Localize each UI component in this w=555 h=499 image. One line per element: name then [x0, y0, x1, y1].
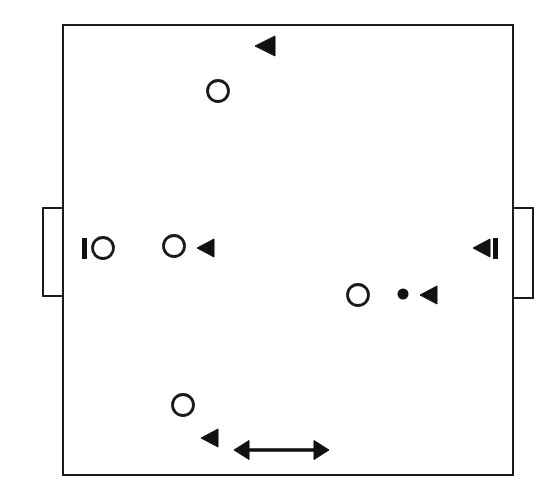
tactical-diagram-figure	[0, 0, 555, 499]
player-top[interactable]	[208, 81, 229, 102]
player-midfield-left[interactable]	[164, 236, 185, 257]
direction-marker-ball-carrier[interactable]	[420, 286, 437, 304]
direction-marker-midfield[interactable]	[197, 239, 214, 257]
playing-area	[63, 25, 513, 475]
player-right-center[interactable]	[348, 285, 369, 306]
left-goal	[43, 208, 63, 296]
direction-marker-right-goal[interactable]	[473, 239, 490, 257]
direction-marker-top[interactable]	[255, 36, 275, 56]
bar-right-goal	[493, 238, 498, 259]
movement-arrow-head-left	[234, 441, 249, 460]
ball[interactable]	[398, 289, 409, 300]
direction-marker-bottom[interactable]	[201, 429, 218, 447]
player-left-goalline[interactable]	[93, 238, 114, 259]
movement-arrow-head-right	[314, 441, 329, 460]
player-bottom[interactable]	[173, 395, 194, 416]
pitch-canvas	[0, 0, 555, 499]
bar-left-goal	[82, 238, 87, 259]
right-goal	[513, 208, 533, 298]
